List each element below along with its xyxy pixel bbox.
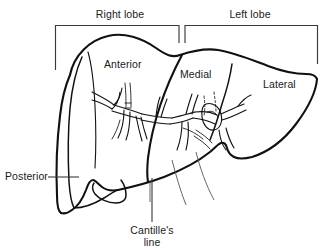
bracket-label-right-lobe: Right lobe — [70, 8, 170, 20]
right-lobe-surface-crease — [88, 52, 96, 168]
liver-diagram-svg — [0, 0, 331, 252]
bracket-left-lobe — [185, 26, 318, 65]
medial-lateral-fissure — [210, 64, 232, 140]
callout-label-cantilles-line-2: line — [112, 236, 192, 248]
right-hepatic-vessels — [92, 83, 147, 141]
liver-anatomy-figure: Right lobe Left lobe Anterior Medial Lat… — [0, 0, 331, 252]
segment-label-lateral: Lateral — [263, 78, 296, 90]
bracket-label-left-lobe: Left lobe — [202, 8, 298, 20]
segment-label-medial: Medial — [180, 68, 212, 80]
cantilles-line-fissure — [147, 55, 182, 182]
callout-label-cantilles-line-1: Cantille's — [112, 224, 192, 236]
callout-label-posterior: Posterior — [5, 170, 48, 182]
segment-label-anterior: Anterior — [104, 58, 142, 70]
